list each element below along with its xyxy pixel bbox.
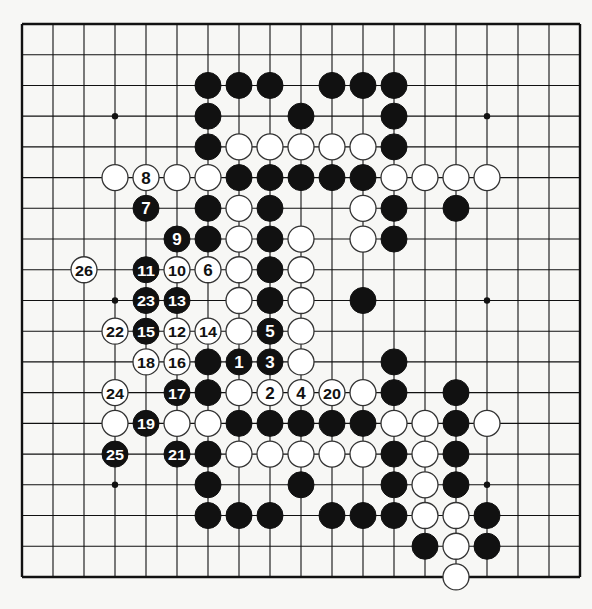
black-stone — [443, 410, 469, 436]
white-stone — [164, 165, 190, 191]
black-stone: 11 — [133, 257, 159, 283]
white-stone — [226, 287, 252, 313]
go-board[interactable]: 8792611106231322151214518161324172420192… — [0, 0, 592, 609]
white-stone: 12 — [164, 318, 190, 344]
black-stone — [412, 533, 438, 559]
move-number: 18 — [137, 354, 155, 371]
black-stone — [195, 472, 221, 498]
white-stone: 18 — [133, 349, 159, 375]
move-number: 11 — [137, 262, 155, 279]
black-stone: 23 — [133, 287, 159, 313]
white-stone — [350, 195, 376, 221]
black-stone — [319, 410, 345, 436]
black-stone: 5 — [257, 318, 283, 344]
star-point — [484, 297, 490, 303]
white-stone — [350, 441, 376, 467]
black-stone — [226, 72, 252, 98]
black-stone: 25 — [102, 441, 128, 467]
white-stone — [443, 533, 469, 559]
black-stone — [195, 349, 221, 375]
black-stone: 1 — [226, 349, 252, 375]
move-number: 19 — [137, 415, 155, 432]
black-stone — [319, 503, 345, 529]
black-stone — [381, 134, 407, 160]
black-stone: 3 — [257, 349, 283, 375]
black-stone — [381, 226, 407, 252]
black-stone — [474, 503, 500, 529]
white-stone — [288, 441, 314, 467]
white-stone: 6 — [195, 257, 221, 283]
black-stone — [350, 410, 376, 436]
move-number: 16 — [168, 354, 186, 371]
black-stone — [226, 503, 252, 529]
white-stone — [226, 226, 252, 252]
black-stone: 7 — [133, 195, 159, 221]
white-stone — [164, 410, 190, 436]
black-stone — [381, 441, 407, 467]
black-stone — [319, 165, 345, 191]
black-stone — [381, 472, 407, 498]
white-stone — [226, 257, 252, 283]
black-stone — [195, 226, 221, 252]
white-stone — [412, 472, 438, 498]
black-stone — [195, 380, 221, 406]
star-point — [112, 113, 118, 119]
black-stone — [381, 103, 407, 129]
black-stone — [195, 503, 221, 529]
white-stone — [381, 410, 407, 436]
move-number: 5 — [265, 322, 274, 341]
move-number: 21 — [168, 446, 186, 463]
move-number: 1 — [234, 353, 243, 372]
black-stone: 17 — [164, 380, 190, 406]
black-stone — [257, 72, 283, 98]
black-stone — [443, 441, 469, 467]
white-stone — [319, 441, 345, 467]
black-stone — [381, 380, 407, 406]
black-stone — [474, 533, 500, 559]
black-stone — [381, 72, 407, 98]
move-number: 7 — [141, 199, 150, 218]
white-stone: 2 — [257, 380, 283, 406]
black-stone — [257, 257, 283, 283]
black-stone: 9 — [164, 226, 190, 252]
white-stone: 20 — [319, 380, 345, 406]
white-stone: 24 — [102, 380, 128, 406]
black-stone — [288, 103, 314, 129]
white-stone — [226, 380, 252, 406]
move-number: 9 — [172, 230, 181, 249]
move-number: 8 — [141, 169, 150, 188]
white-stone: 14 — [195, 318, 221, 344]
white-stone: 10 — [164, 257, 190, 283]
white-stone — [350, 380, 376, 406]
black-stone — [350, 165, 376, 191]
move-number: 24 — [106, 385, 125, 402]
black-stone — [319, 72, 345, 98]
white-stone — [226, 195, 252, 221]
white-stone — [381, 165, 407, 191]
white-stone — [412, 503, 438, 529]
black-stone — [257, 410, 283, 436]
black-stone — [257, 226, 283, 252]
white-stone: 26 — [71, 257, 97, 283]
move-number: 6 — [203, 261, 212, 280]
black-stone: 13 — [164, 287, 190, 313]
white-stone — [195, 165, 221, 191]
black-stone — [288, 410, 314, 436]
black-stone — [350, 72, 376, 98]
white-stone — [412, 410, 438, 436]
white-stone: 8 — [133, 165, 159, 191]
black-stone — [381, 503, 407, 529]
white-stone — [474, 165, 500, 191]
white-stone — [102, 165, 128, 191]
black-stone — [443, 195, 469, 221]
white-stone — [443, 165, 469, 191]
move-number: 20 — [323, 385, 341, 402]
move-number: 22 — [106, 323, 124, 340]
move-number: 14 — [199, 323, 218, 340]
white-stone — [288, 134, 314, 160]
black-stone — [226, 410, 252, 436]
black-stone — [288, 472, 314, 498]
move-number: 12 — [168, 323, 186, 340]
move-number: 17 — [168, 385, 186, 402]
white-stone: 22 — [102, 318, 128, 344]
